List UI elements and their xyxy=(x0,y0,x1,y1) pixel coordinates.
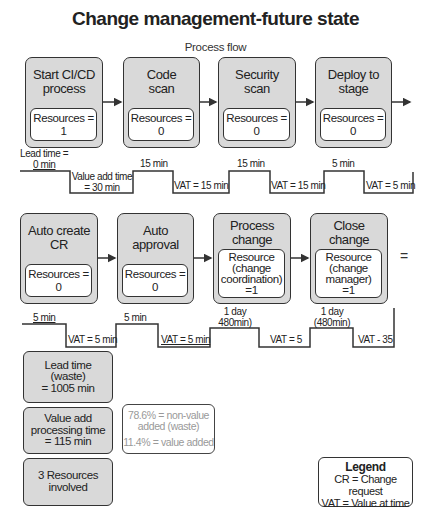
lead-time-summary: Lead time (waste) = 1005 min xyxy=(23,351,113,403)
equals-sign: = xyxy=(400,248,408,264)
step-auto-create-cr: Auto create CR Resources = 0 xyxy=(20,213,98,304)
resource-manager-box: Resource (change manager) =1 xyxy=(315,249,382,298)
resources-box: Resources = 1 xyxy=(30,108,97,141)
resources-box: Resources = 0 xyxy=(128,108,194,141)
resource-line: =1 xyxy=(342,285,354,296)
step-title-line: change xyxy=(214,233,290,247)
lead-time-line: 0 min xyxy=(20,160,68,171)
wait-label: 5 min xyxy=(124,313,146,324)
wait-day-label: 1 day (480min) xyxy=(309,307,355,328)
resource-line: =1 xyxy=(245,285,257,296)
step-title-line: scan xyxy=(219,82,295,96)
summary-line: = 1005 min xyxy=(41,383,94,395)
vat-label: VAT = 15 min xyxy=(271,181,325,192)
resources-box: Resources = 0 xyxy=(320,108,386,141)
step-title-line: Deploy to xyxy=(316,68,391,82)
vat-label: VAT = 5 min xyxy=(161,335,210,346)
vat-first-label: Value add time = 30 min xyxy=(71,172,133,193)
percent-line: 11.4% = value added xyxy=(123,437,214,448)
wait-label: 5 min xyxy=(33,313,55,324)
resource-line: Resource xyxy=(325,252,371,263)
summary-line: involved xyxy=(49,482,88,494)
percentage-box: 78.6% = non-value added (waste) 11.4% = … xyxy=(122,404,215,454)
value-add-summary: Value add processing time = 115 min xyxy=(23,407,113,454)
vat-label: VAT = 5 xyxy=(270,335,302,346)
step-title-line: Process xyxy=(214,219,290,233)
step-title-line: Code xyxy=(124,68,199,82)
percent-line: added (waste) xyxy=(123,421,214,432)
step-title-line: scan xyxy=(124,82,199,96)
wait-day-line: 480min) xyxy=(212,318,258,329)
wait-day-line: 1 day xyxy=(212,307,258,318)
wait-label: 5 min xyxy=(332,159,354,170)
legend-title: Legend xyxy=(319,461,412,473)
resource-line: Resource xyxy=(228,252,274,263)
step-auto-approval: Auto approval Resources = 0 xyxy=(117,213,194,304)
step-close-change: Close change Resource (change manager) =… xyxy=(310,213,388,304)
resource-line: (change xyxy=(329,263,368,274)
step-code-scan: Code scan Resources = 0 xyxy=(123,57,200,148)
resource-coordination-box: Resource (change coordination) =1 xyxy=(218,249,285,298)
wait-label: 15 min xyxy=(237,159,265,170)
step-title-line: CR xyxy=(21,238,97,252)
step-title-line: Auto create xyxy=(21,224,97,238)
step-process-change: Process change Resource (change coordina… xyxy=(213,213,291,304)
step-deploy-to-stage: Deploy to stage Resources = 0 xyxy=(315,57,392,148)
step-title-line: change xyxy=(311,233,387,247)
resource-line: coordination) xyxy=(221,274,282,285)
lead-time-label: Lead time = 0 min xyxy=(20,149,68,170)
resource-line: manager) xyxy=(325,274,371,285)
step-security-scan: Security scan Resources = 0 xyxy=(218,57,296,148)
legend-box: Legend CR = Change request VAT = Value a… xyxy=(318,457,413,507)
legend-item: CR = Change request xyxy=(319,473,412,497)
step-title-line: stage xyxy=(316,82,391,96)
vat-label: VAT = 5 min xyxy=(366,181,415,192)
vat-line: = 30 min xyxy=(71,183,133,194)
step-title-line: Security xyxy=(219,68,295,82)
step-title-line: approval xyxy=(118,238,193,252)
vat-label: VAT - 35 xyxy=(358,335,393,346)
resources-summary: 3 Resources involved xyxy=(23,458,113,506)
resources-box: Resources = 0 xyxy=(223,108,290,141)
resources-box: Resources = 0 xyxy=(122,264,188,297)
summary-line: 3 Resources xyxy=(38,470,98,482)
lead-time-line: Lead time = xyxy=(20,149,68,160)
vat-line: Value add time xyxy=(71,172,133,183)
step-title-line: Start CI/CD xyxy=(26,68,102,82)
resources-box: Resources = 0 xyxy=(25,264,92,297)
percent-line: 78.6% = non-value xyxy=(123,410,214,421)
wait-day-line: (480min) xyxy=(309,318,355,329)
wait-label: 15 min xyxy=(140,159,168,170)
step-start-cicd-process: Start CI/CD process Resources = 1 xyxy=(25,57,103,148)
wait-day-line: 1 day xyxy=(309,307,355,318)
step-title-line: Auto xyxy=(118,224,193,238)
vat-label: VAT = 15 min xyxy=(174,181,228,192)
resource-line: (change xyxy=(232,263,271,274)
step-title-line: Close xyxy=(311,219,387,233)
vat-label: VAT = 5 min xyxy=(68,335,117,346)
wait-day-label: 1 day 480min) xyxy=(212,307,258,328)
step-title-line: process xyxy=(26,82,102,96)
legend-item: VAT = Value at time xyxy=(319,497,412,509)
summary-line: = 115 min xyxy=(45,436,91,448)
